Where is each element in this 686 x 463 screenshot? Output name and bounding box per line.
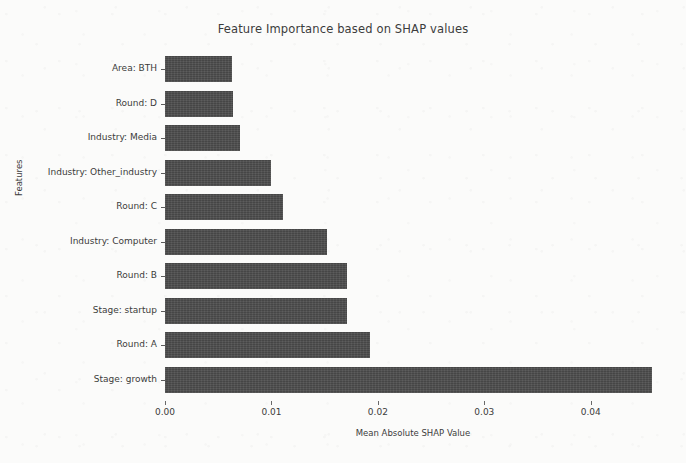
bar-stage-growth bbox=[165, 367, 652, 393]
bar-industry-media bbox=[165, 125, 240, 151]
y-tick-label: Round: A bbox=[0, 339, 157, 349]
y-tick-mark bbox=[161, 242, 165, 243]
bar-fill bbox=[165, 160, 271, 186]
bar-round-a bbox=[165, 332, 370, 358]
bar-area-bth bbox=[165, 56, 232, 82]
bar-stage-startup bbox=[165, 298, 347, 324]
y-tick-label: Industry: Other_industry bbox=[0, 167, 157, 177]
bar-fill bbox=[165, 332, 370, 358]
x-tick-mark bbox=[484, 401, 485, 405]
bar-fill bbox=[165, 91, 233, 117]
y-tick-mark bbox=[161, 207, 165, 208]
bar-round-c bbox=[165, 194, 283, 220]
bar-fill bbox=[165, 229, 327, 255]
bar-round-d bbox=[165, 91, 233, 117]
x-tick-mark bbox=[165, 401, 166, 405]
y-tick-label: Stage: growth bbox=[0, 374, 157, 384]
bar-industry-computer bbox=[165, 229, 327, 255]
y-tick-label: Industry: Media bbox=[0, 132, 157, 142]
y-tick-mark bbox=[161, 173, 165, 174]
bar-round-b bbox=[165, 263, 347, 289]
y-tick-mark bbox=[161, 138, 165, 139]
bar-fill bbox=[165, 56, 232, 82]
bar-fill bbox=[165, 367, 652, 393]
y-tick-mark bbox=[161, 345, 165, 346]
y-axis-title: Features bbox=[14, 159, 24, 196]
y-tick-label: Round: B bbox=[0, 270, 157, 280]
y-tick-label: Area: BTH bbox=[0, 63, 157, 73]
x-tick-mark bbox=[378, 401, 379, 405]
x-tick-label: 0.01 bbox=[261, 407, 281, 417]
x-tick-label: 0.02 bbox=[368, 407, 388, 417]
bar-fill bbox=[165, 263, 347, 289]
x-axis-title: Mean Absolute SHAP Value bbox=[165, 428, 661, 438]
bar-fill bbox=[165, 125, 240, 151]
y-tick-mark bbox=[161, 104, 165, 105]
x-tick-mark bbox=[271, 401, 272, 405]
y-tick-label: Stage: startup bbox=[0, 305, 157, 315]
bar-fill bbox=[165, 194, 283, 220]
y-tick-mark bbox=[161, 311, 165, 312]
page-title: Feature Importance based on SHAP values bbox=[0, 22, 686, 36]
y-tick-mark bbox=[161, 69, 165, 70]
x-tick-label: 0.00 bbox=[155, 407, 175, 417]
x-tick-mark bbox=[591, 401, 592, 405]
chart-page: Feature Importance based on SHAP values … bbox=[0, 0, 686, 463]
y-tick-label: Industry: Computer bbox=[0, 236, 157, 246]
x-tick-label: 0.03 bbox=[474, 407, 494, 417]
bar-industry-other-industry bbox=[165, 160, 271, 186]
y-tick-label: Round: C bbox=[0, 201, 157, 211]
plot-area: Mean Absolute SHAP Value 0.000.010.020.0… bbox=[165, 52, 661, 397]
y-tick-mark bbox=[161, 276, 165, 277]
bar-fill bbox=[165, 298, 347, 324]
y-tick-label: Round: D bbox=[0, 98, 157, 108]
x-tick-label: 0.04 bbox=[581, 407, 601, 417]
y-tick-mark bbox=[161, 380, 165, 381]
